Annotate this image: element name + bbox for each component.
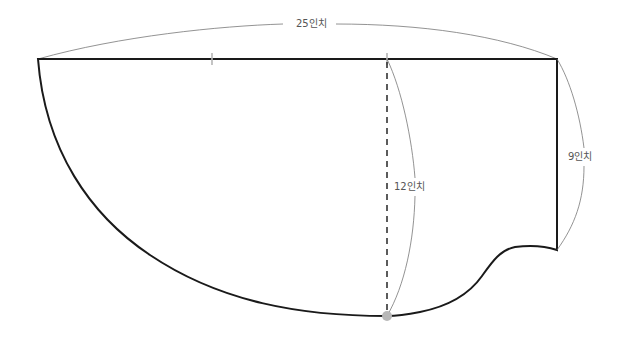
center-dimension-arc-top (387, 59, 415, 178)
center-length-label: 12인치 (392, 181, 427, 193)
side-dimension-arc-top (557, 59, 584, 148)
center-marker-dot (382, 311, 392, 321)
side-length-label: 9인치 (566, 151, 594, 163)
width-label: 25인치 (294, 18, 329, 30)
side-dimension-arc-bottom (557, 166, 584, 250)
width-dimension-arc-right (336, 24, 557, 59)
center-dimension-arc-bottom (387, 196, 415, 316)
pattern-diagram (0, 0, 635, 346)
width-dimension-arc (38, 24, 283, 59)
pattern-outline (38, 59, 557, 316)
